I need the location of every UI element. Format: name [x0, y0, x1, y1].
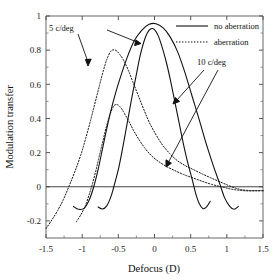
y-tick-label: 0.2 — [30, 148, 41, 158]
annotation-10-cdeg: 10 c/deg — [197, 57, 227, 67]
legend-label-aberration: aberration — [214, 37, 249, 47]
x-tick-label: 1.5 — [257, 244, 269, 254]
x-tick-label: 0 — [152, 244, 157, 254]
x-tick-label: 0.5 — [185, 244, 197, 254]
legend-label-no-aberration: no aberration — [214, 21, 260, 31]
annotation-5-cdeg: 5 c/deg — [49, 23, 75, 33]
figure-container: -1.5-1-0.500.511.5 -0.200.20.40.60.81 5 … — [0, 0, 275, 280]
x-tick-label: -1 — [78, 244, 86, 254]
x-axis-title: Defocus (D) — [128, 263, 181, 275]
y-tick-label: 1 — [37, 11, 42, 21]
x-tick-label: -0.5 — [111, 244, 126, 254]
y-tick-label: -0.2 — [27, 216, 41, 226]
y-tick-label: 0.6 — [30, 80, 42, 90]
mtf-defocus-chart: -1.5-1-0.500.511.5 -0.200.20.40.60.81 5 … — [0, 0, 275, 280]
x-tick-label: -1.5 — [39, 244, 54, 254]
y-tick-label: 0.8 — [30, 45, 42, 55]
y-tick-label: 0.4 — [30, 114, 42, 124]
y-axis-title: Modulation transfer — [4, 85, 15, 169]
y-tick-label: 0 — [37, 182, 42, 192]
x-tick-label: 1 — [225, 244, 230, 254]
